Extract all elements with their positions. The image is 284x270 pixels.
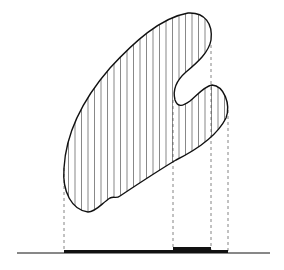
projection-bars	[64, 247, 228, 253]
projection-lines	[64, 45, 228, 252]
shape-hatching	[62, 8, 231, 216]
projection-diagram	[0, 0, 284, 270]
projection-bar	[173, 247, 211, 253]
